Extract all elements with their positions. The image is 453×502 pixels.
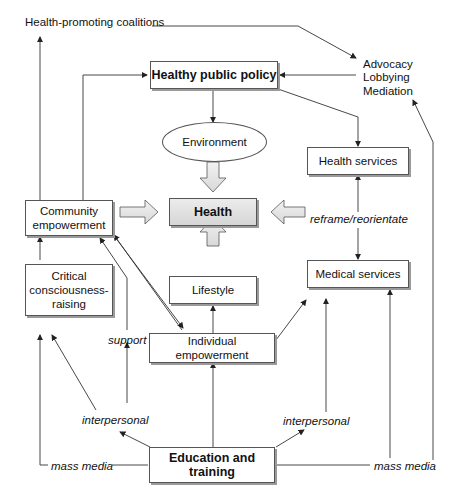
interpersonal-left-label: interpersonal <box>82 413 148 427</box>
health-promoting-coalitions-label: Health-promoting coalitions <box>25 15 164 29</box>
mediation-label: Mediation <box>363 84 413 98</box>
node-medical-services: Medical services <box>307 260 409 288</box>
node-individual-empowerment: Individual empowerment <box>149 333 275 363</box>
advocacy-label: Advocacy <box>363 57 413 71</box>
support-label: support <box>108 333 146 347</box>
mass-media-right-label: mass media <box>374 459 436 473</box>
node-critical-consciousness-raising: Critical consciousness-raising <box>25 264 113 316</box>
node-community-empowerment: Community empowerment <box>25 200 113 236</box>
node-healthy-public-policy: Healthy public policy <box>150 61 278 89</box>
node-health-services: Health services <box>307 147 409 175</box>
node-education-and-training: Education and training <box>149 447 275 483</box>
lobbying-label: Lobbying <box>363 70 410 84</box>
reframe-label: reframe/reorientate <box>310 212 408 226</box>
node-health: Health <box>169 198 257 226</box>
node-environment: Environment <box>162 122 267 162</box>
node-lifestyle: Lifestyle <box>169 276 257 304</box>
interpersonal-right-label: interpersonal <box>283 414 349 428</box>
mass-media-left-label: mass media <box>51 459 113 473</box>
